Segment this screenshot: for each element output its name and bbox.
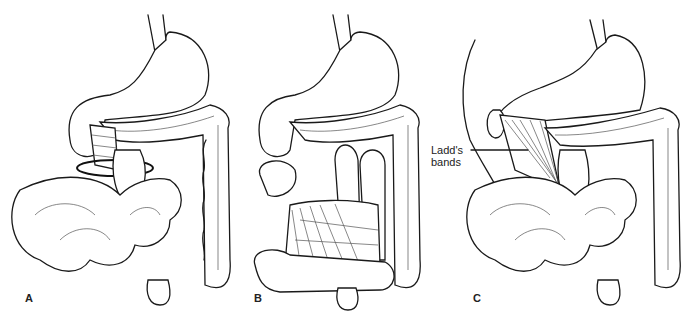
panel-c-drawing [463, 20, 680, 305]
panel-label-b: B [254, 292, 262, 304]
callout-line-2: bands [431, 156, 463, 168]
panel-a-drawing [12, 15, 230, 305]
panel-label-c: C [473, 292, 481, 304]
callout-line-1: Ladd's [431, 144, 463, 156]
panel-label-a: A [25, 292, 33, 304]
ladds-bands-callout: Ladd's bands [431, 144, 463, 168]
panel-b-drawing [254, 15, 420, 310]
illustration-canvas [0, 0, 691, 321]
malrotation-figure: A B C Ladd's bands [0, 0, 691, 321]
